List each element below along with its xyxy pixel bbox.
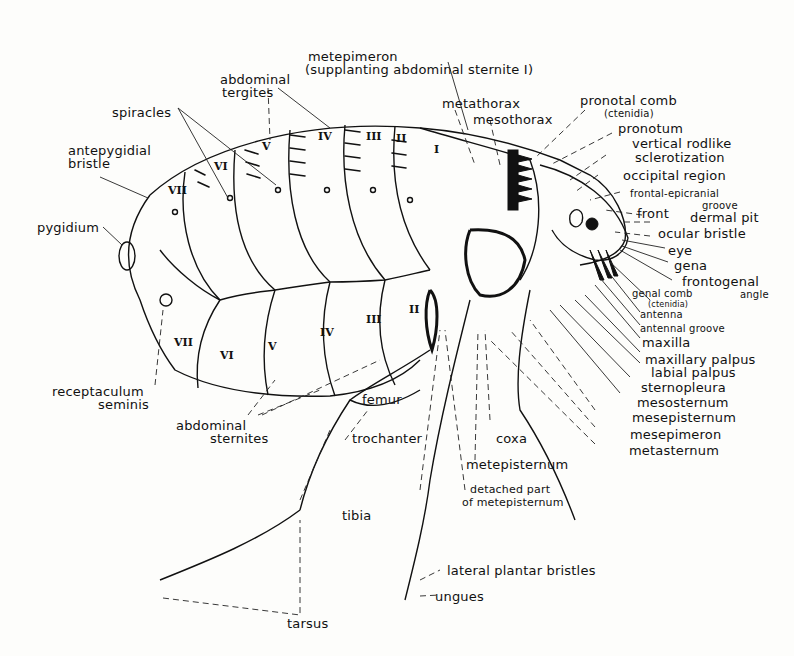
label-sternopleura: sternopleura: [641, 381, 726, 395]
label-front: front: [637, 207, 669, 221]
receptaculum-seminis: [160, 294, 172, 306]
label-labial-palpus: labial palpus: [651, 366, 736, 380]
sternite-numeral: VII: [174, 336, 193, 349]
label-mesepisternum: mesepisternum: [632, 411, 736, 425]
sternite-numeral: IV: [320, 326, 334, 339]
tergite-numeral: VII: [168, 184, 187, 197]
pronotal-comb: [508, 150, 532, 210]
label-coxa: coxa: [496, 432, 527, 446]
tergite-numeral: II: [396, 132, 406, 145]
label-angle: angle: [740, 289, 769, 300]
sternite-line: [197, 300, 220, 388]
sternite-line: [324, 282, 335, 396]
label-antepygidial-2: bristle: [68, 157, 110, 171]
label-metathorax: metathorax: [442, 97, 520, 111]
sternite-line: [380, 280, 395, 385]
label-maxilla: maxilla: [642, 336, 691, 350]
tergite-numeral: IV: [318, 130, 332, 143]
hind-tarsus: [160, 510, 300, 580]
tergite-line: [234, 150, 275, 290]
label-mesepimeron: mesepimeron: [630, 428, 721, 442]
label-antennal-groove: antennal groove: [640, 323, 725, 334]
sternite-numeral: V: [268, 340, 277, 353]
label-mesosternum: mesosternum: [637, 396, 729, 410]
label-pygidium: pygidium: [37, 221, 99, 235]
label-spiracles: spiracles: [112, 106, 171, 120]
metathorax-plate: [466, 230, 525, 297]
label-pronotum: pronotum: [618, 122, 683, 136]
label-ocular-bristle: ocular bristle: [658, 227, 746, 241]
label-trochanter: trochanter: [352, 432, 422, 446]
label-vertical-rodlike: vertical rodlike: [632, 137, 731, 151]
label-metepimeron-note: (supplanting abdominal sternite I): [305, 63, 533, 77]
tergite-line: [183, 172, 220, 300]
head-outline: [540, 165, 628, 260]
label-tarsus: tarsus: [287, 617, 328, 631]
label-mesothorax: mesothorax: [473, 113, 553, 127]
label-abdominal-sternites-2: sternites: [210, 432, 269, 446]
tergite-numeral: III: [366, 130, 381, 143]
pygidium-plate: [119, 242, 135, 270]
label-detached-part: detached part: [470, 484, 550, 495]
metepimeron-plate: [426, 290, 437, 350]
label-of-metepisternum: of metepisternum: [462, 497, 564, 508]
sternite-line: [160, 250, 430, 300]
eye: [586, 218, 598, 230]
label-gena: gena: [674, 259, 707, 273]
abdomen-outline: [150, 126, 625, 265]
label-frontal-epicranial: frontal-epicranial: [630, 188, 719, 199]
antenna: [570, 210, 583, 227]
label-lateral-plantar-bristles: lateral plantar bristles: [447, 564, 596, 578]
label-antenna: antenna: [640, 309, 683, 320]
tergite-numeral: V: [262, 140, 271, 153]
label-sclerotization: sclerotization: [635, 151, 725, 165]
label-eye: eye: [668, 244, 692, 258]
label-ungues: ungues: [435, 590, 484, 604]
label-metasternum: metasternum: [629, 444, 719, 458]
label-femur: femur: [362, 393, 402, 407]
tergite-numeral: VI: [214, 160, 228, 173]
tergite-line: [344, 125, 385, 280]
label-genal-comb: genal comb: [632, 288, 693, 299]
sternite-numeral: III: [366, 313, 381, 326]
tergite-line: [289, 130, 330, 282]
hind-tibia: [300, 400, 350, 510]
label-metepisternum: metepisternum: [466, 458, 568, 472]
label-frontogenal: frontogenal: [682, 275, 759, 289]
label-receptaculum-2: seminis: [98, 398, 149, 412]
sternite-numeral: VI: [220, 349, 234, 362]
tergite-numeral: I: [434, 143, 439, 156]
abdomen-ventral-outline: [129, 195, 420, 396]
label-dermal-pit: dermal pit: [690, 211, 759, 225]
label-occipital-region: occipital region: [623, 169, 726, 183]
label-pronotal-comb-note: (ctenidia): [604, 108, 654, 119]
label-abdominal-tergites-2: tergites: [222, 86, 274, 100]
sternite-numeral: II: [409, 303, 419, 316]
label-tibia: tibia: [342, 509, 372, 523]
label-pronotal-comb: pronotal comb: [580, 94, 677, 108]
